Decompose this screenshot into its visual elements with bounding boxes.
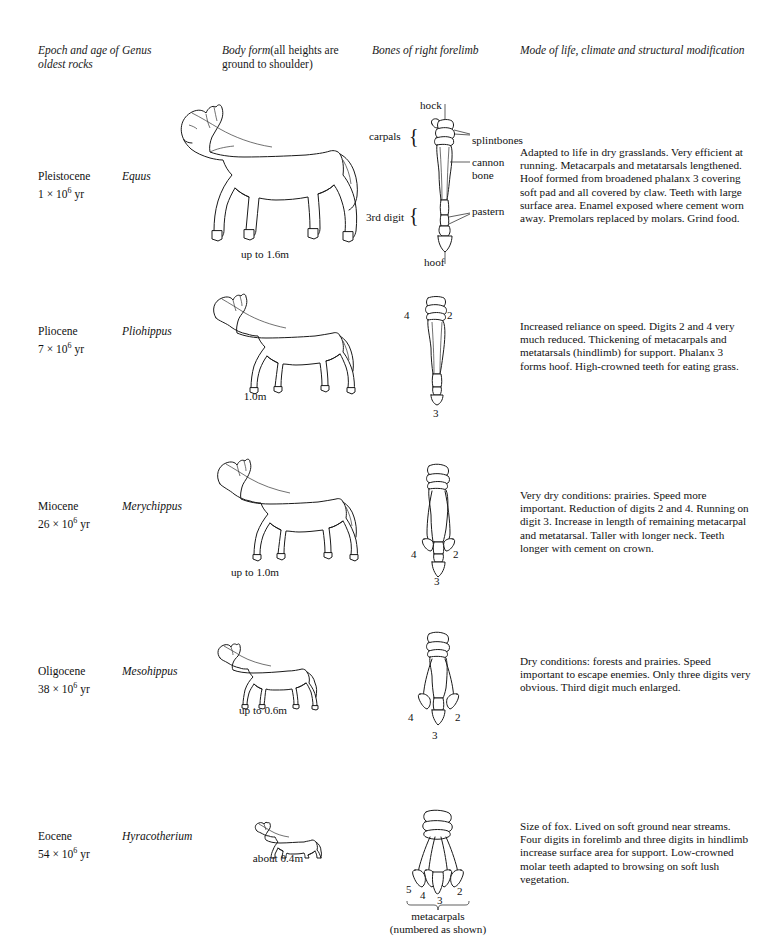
epoch-cell-pleistocene: Pleistocene 1 × 106 yr [38, 170, 124, 201]
metacarpals-caption: metacarpals (numbered as shown) [358, 910, 518, 936]
digit-label-5-hyracotherium: 5 [406, 884, 412, 895]
size-caption-hyracotherium: about 0.4m [218, 852, 338, 865]
size-caption-pliohippus: 1.0m [205, 390, 305, 403]
epoch-name: Pleistocene [38, 170, 124, 184]
column-header-mode: Mode of life, climate and structural mod… [520, 44, 760, 58]
digit-label-4-merychippus: 4 [411, 549, 417, 560]
forelimb-merychippus [418, 463, 466, 578]
body-form-pliohippus [188, 288, 358, 393]
carpals-brace: { [409, 126, 419, 146]
column-header-bones: Bones of right forelimb [372, 44, 522, 58]
epoch-name: Pliocene [38, 325, 124, 339]
digit-label-2-merychippus: 2 [453, 549, 459, 560]
epoch-age: 1 × 106 yr [38, 184, 124, 201]
limb-label-pastern: pastern [472, 205, 504, 218]
description-hyracotherium: Size of fox. Lived on soft ground near s… [520, 820, 752, 886]
digit-label-2-hyracotherium: 2 [457, 886, 463, 897]
body-form-mesohippus [198, 638, 338, 708]
description-merychippus: Very dry conditions: prairies. Speed mor… [520, 489, 752, 555]
epoch-name: Oligocene [38, 665, 124, 679]
epoch-age: 38 × 106 yr [38, 679, 124, 696]
epoch-cell-oligocene: Oligocene 38 × 106 yr [38, 665, 124, 696]
epoch-name: Eocene [38, 830, 124, 844]
limb-label-carpals: carpals [369, 130, 401, 143]
size-caption-mesohippus: up to 0.6m [198, 704, 328, 717]
column-header-genus: Genus [122, 44, 212, 58]
forelimb-equus [418, 118, 478, 253]
column-header-epoch: Epoch and age of oldest rocks [38, 44, 128, 71]
epoch-age: 7 × 106 yr [38, 339, 124, 356]
third-digit-brace: { [409, 205, 419, 225]
digit-label-4-mesohippus: 4 [408, 712, 414, 723]
epoch-age: 26 × 106 yr [38, 514, 124, 531]
digit-label-3-mesohippus: 3 [432, 730, 438, 741]
size-caption-merychippus: up to 1.0m [195, 566, 315, 579]
body-form-merychippus [190, 452, 360, 562]
digit-label-2-mesohippus: 2 [455, 712, 461, 723]
limb-label-hoof: hoof [424, 256, 445, 269]
forelimb-hyracotherium [404, 808, 474, 898]
forelimb-pliohippus [418, 295, 464, 405]
epoch-cell-pliocene: Pliocene 7 × 106 yr [38, 325, 124, 356]
digit-label-2-pliohippus: 2 [447, 310, 453, 321]
metacarpals-caption-line1: metacarpals [358, 910, 518, 923]
genus-cell-hyracotherium: Hyracotherium [122, 830, 217, 844]
limb-label-splintbones: splintbones [472, 134, 523, 147]
body-form-equus [148, 95, 363, 250]
column-header-body-form: Body form(all heights are ground to shou… [222, 44, 372, 71]
limb-label-third-digit: 3rd digit [366, 211, 404, 224]
digit-label-4-pliohippus: 4 [404, 310, 410, 321]
body-form-italic-part: Body form [222, 44, 270, 56]
digit-label-3-merychippus: 3 [434, 576, 440, 587]
description-equus: Adapted to life in dry grasslands. Very … [520, 146, 752, 225]
epoch-age: 54 × 106 yr [38, 844, 124, 861]
metacarpals-caption-line2: (numbered as shown) [358, 923, 518, 936]
epoch-cell-eocene: Eocene 54 × 106 yr [38, 830, 124, 861]
digit-label-3-pliohippus: 3 [433, 408, 439, 419]
epoch-cell-miocene: Miocene 26 × 106 yr [38, 500, 124, 531]
horse-evolution-chart: Epoch and age of oldest rocks Genus Body… [0, 0, 760, 936]
description-pliohippus: Increased reliance on speed. Digits 2 an… [520, 320, 752, 373]
limb-label-hock: hock [420, 99, 442, 112]
epoch-name: Miocene [38, 500, 124, 514]
description-mesohippus: Dry conditions: forests and prairies. Sp… [520, 655, 752, 695]
size-caption-equus: up to 1.6m [205, 248, 325, 261]
